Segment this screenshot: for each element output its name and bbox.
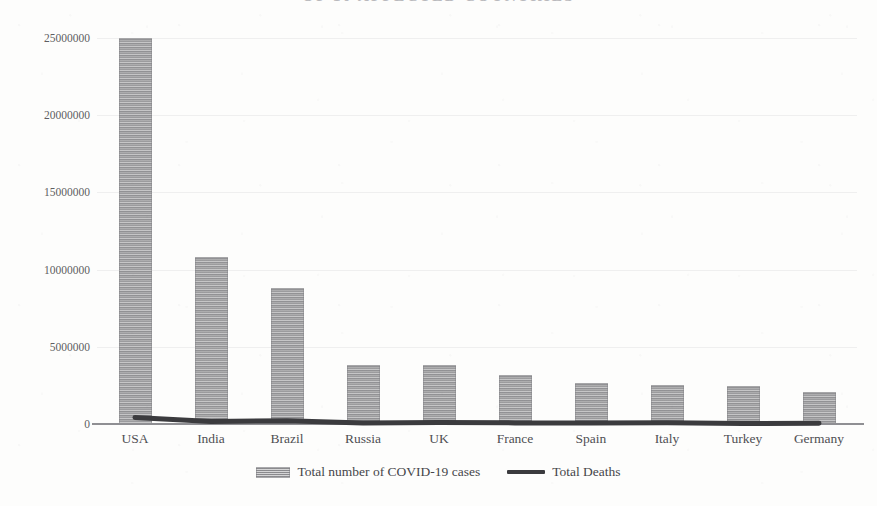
y-axis-tick-labels: 0500000010000000150000002000000025000000 bbox=[0, 38, 90, 424]
chart-title: OP 10 AFFECTED COUNTRIES bbox=[0, 0, 877, 5]
y-tick-label: 10000000 bbox=[4, 264, 90, 276]
x-tick-label-germany: Germany bbox=[773, 431, 865, 447]
y-tick-label: 0 bbox=[4, 418, 90, 430]
total-deaths-line-series bbox=[97, 38, 857, 428]
chart-legend: Total number of COVID-19 cases Total Dea… bbox=[0, 464, 877, 480]
legend-label-cases: Total number of COVID-19 cases bbox=[297, 464, 480, 480]
y-tick-label: 15000000 bbox=[4, 186, 90, 198]
solid-line-swatch-icon bbox=[507, 470, 545, 474]
legend-label-deaths: Total Deaths bbox=[552, 464, 620, 480]
chart-figure: OP 10 AFFECTED COUNTRIES 050000001000000… bbox=[0, 0, 877, 506]
total-deaths-polyline bbox=[135, 418, 819, 424]
y-tick-label: 25000000 bbox=[4, 32, 90, 44]
striped-bar-swatch-icon bbox=[256, 467, 290, 478]
y-tick-label: 20000000 bbox=[4, 109, 90, 121]
legend-entry-deaths: Total Deaths bbox=[507, 464, 620, 480]
y-tick-label: 5000000 bbox=[4, 341, 90, 353]
x-axis-category-labels: USAIndiaBrazilRussiaUKFranceSpainItalyTu… bbox=[97, 431, 857, 453]
legend-entry-cases: Total number of COVID-19 cases bbox=[256, 464, 480, 480]
